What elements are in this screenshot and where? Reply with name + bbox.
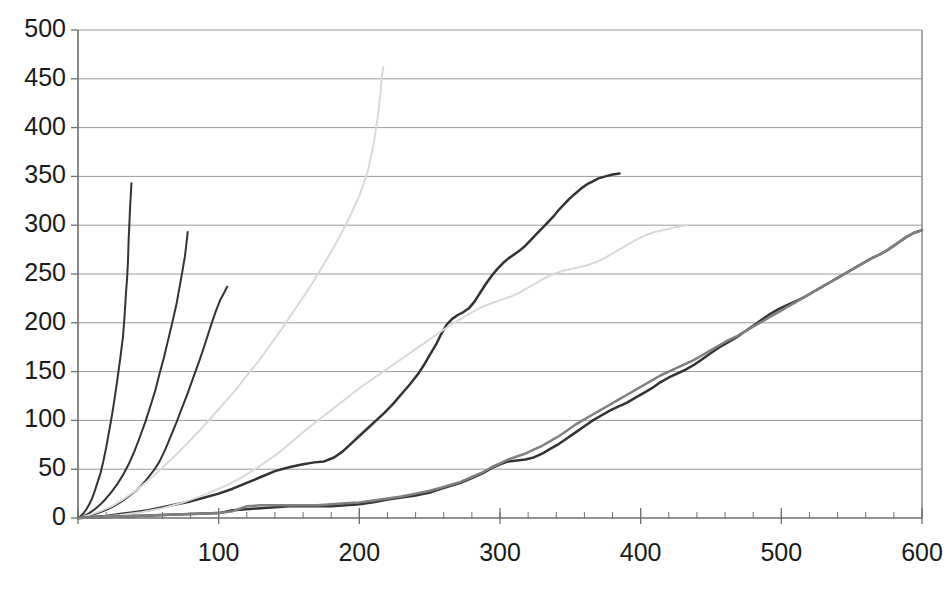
chart-container: 050100150200250300350400450500 100200300… [0,0,950,593]
x-tick-label: 300 [460,538,540,567]
line-chart-plot [0,0,950,593]
series-line-series-7 [78,230,922,518]
x-tick-label: 200 [319,538,399,567]
y-tick-label: 50 [38,453,66,482]
gridlines [78,30,922,469]
y-tick-label: 500 [24,14,66,43]
y-tick-label: 400 [24,112,66,141]
data-series-group [78,67,922,518]
x-major-ticks [78,508,922,524]
x-tick-label: 500 [741,538,821,567]
y-tick-label: 200 [24,307,66,336]
y-ticks [71,30,78,518]
x-tick-label: 100 [179,538,259,567]
series-line-series-1 [78,183,131,518]
x-tick-label: 600 [882,538,950,567]
series-line-series-4 [78,67,383,518]
y-tick-label: 100 [24,404,66,433]
y-tick-label: 0 [52,502,66,531]
y-tick-label: 300 [24,209,66,238]
y-tick-label: 450 [24,63,66,92]
series-line-series-8 [78,230,922,518]
series-line-series-2 [78,232,188,518]
x-tick-label: 400 [601,538,681,567]
y-tick-label: 250 [24,258,66,287]
y-tick-label: 350 [24,160,66,189]
y-tick-label: 150 [24,356,66,385]
